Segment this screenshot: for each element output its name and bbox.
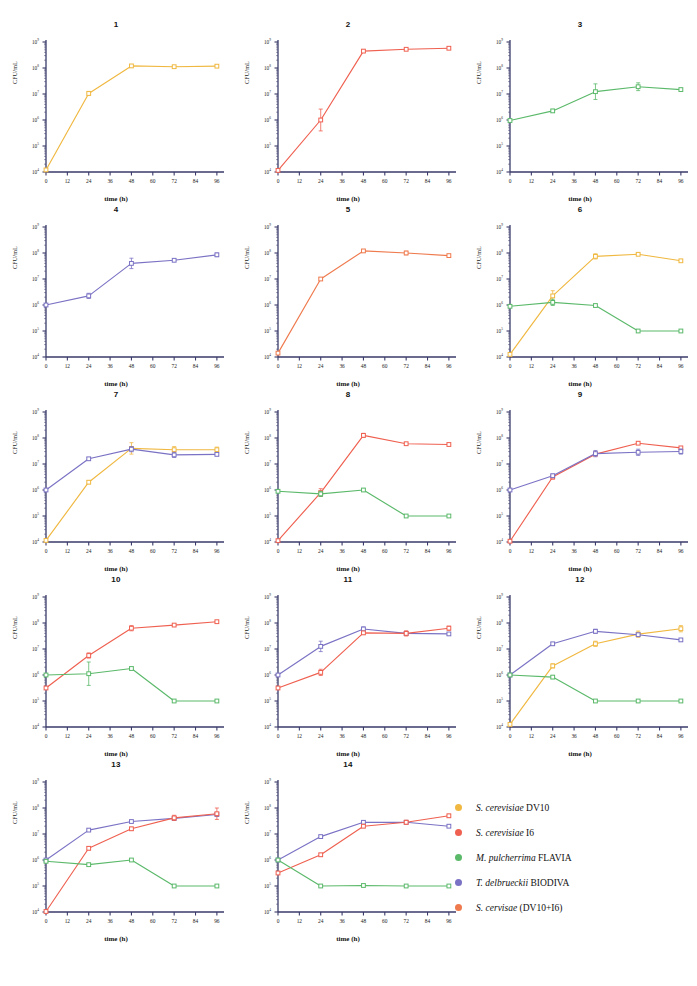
svg-text:108: 108 [32,804,39,811]
svg-text:60: 60 [150,363,156,369]
svg-text:36: 36 [571,733,577,739]
svg-text:84: 84 [657,733,663,739]
legend-strain-name: I6 [526,828,534,838]
panel-title: 10 [0,575,232,584]
figure-legend: S. cerevisiae DV10S. cerevisiae I6M. pul… [455,795,695,920]
svg-text:84: 84 [193,363,199,369]
svg-text:106: 106 [32,301,39,308]
svg-text:105: 105 [264,142,271,149]
svg-text:12: 12 [65,548,71,554]
svg-text:72: 72 [635,363,641,369]
svg-text:84: 84 [425,918,431,924]
panel-title: 9 [464,390,696,399]
plot-area: CFU/mLtime (h)10410510610710810901224364… [0,217,232,387]
svg-text:109: 109 [264,408,271,415]
svg-text:109: 109 [32,593,39,600]
legend-strain-name: DV10 [526,803,549,813]
legend-item: M. pulcherrima FLAVIA [455,845,695,870]
svg-text:60: 60 [614,178,620,184]
svg-text:48: 48 [129,918,135,924]
svg-text:36: 36 [339,363,345,369]
svg-text:48: 48 [593,733,599,739]
svg-text:106: 106 [264,486,271,493]
plot-area: CFU/mLtime (h)10410510610710810901224364… [232,772,464,942]
svg-text:12: 12 [529,548,535,554]
svg-text:109: 109 [264,778,271,785]
svg-text:96: 96 [214,178,220,184]
svg-text:60: 60 [150,548,156,554]
svg-text:24: 24 [318,178,324,184]
svg-text:109: 109 [264,593,271,600]
svg-text:72: 72 [403,363,409,369]
legend-label: S. cerevisiae I6 [476,828,534,838]
svg-text:104: 104 [264,538,271,545]
chart-panel: 8CFU/mLtime (h)1041051061071081090122436… [232,388,464,573]
svg-text:109: 109 [32,38,39,45]
svg-text:96: 96 [214,548,220,554]
svg-text:107: 107 [32,645,39,652]
svg-text:0: 0 [45,733,48,739]
svg-text:108: 108 [264,249,271,256]
svg-text:105: 105 [264,697,271,704]
svg-text:107: 107 [32,90,39,97]
svg-text:24: 24 [550,363,556,369]
svg-text:36: 36 [571,548,577,554]
svg-text:72: 72 [635,178,641,184]
svg-text:108: 108 [264,804,271,811]
svg-text:60: 60 [150,733,156,739]
chart-panel: 3CFU/mLtime (h)1041051061071081090122436… [464,18,696,203]
panel-title: 13 [0,760,232,769]
svg-text:72: 72 [171,918,177,924]
svg-text:0: 0 [277,178,280,184]
legend-species-name: T. delbrueckii [476,878,528,888]
svg-text:84: 84 [193,178,199,184]
svg-text:105: 105 [496,142,503,149]
svg-text:104: 104 [32,168,39,175]
svg-text:96: 96 [446,918,452,924]
svg-text:109: 109 [496,38,503,45]
svg-text:12: 12 [297,363,303,369]
svg-text:0: 0 [509,363,512,369]
svg-text:48: 48 [593,548,599,554]
plot-area: CFU/mLtime (h)10410510610710810901224364… [464,32,696,202]
svg-text:48: 48 [361,548,367,554]
svg-text:106: 106 [496,116,503,123]
svg-text:107: 107 [32,275,39,282]
svg-text:105: 105 [496,512,503,519]
svg-text:105: 105 [32,142,39,149]
svg-text:36: 36 [107,548,113,554]
svg-text:84: 84 [657,178,663,184]
svg-text:96: 96 [446,733,452,739]
svg-text:109: 109 [496,223,503,230]
svg-text:36: 36 [571,363,577,369]
svg-text:109: 109 [496,593,503,600]
svg-text:24: 24 [550,733,556,739]
svg-text:12: 12 [297,178,303,184]
plot-area: CFU/mLtime (h)10410510610710810901224364… [464,402,696,572]
svg-text:36: 36 [107,363,113,369]
svg-text:36: 36 [107,918,113,924]
svg-text:104: 104 [496,353,503,360]
svg-text:104: 104 [32,353,39,360]
legend-strain-name: BIODIVA [530,878,569,888]
svg-text:108: 108 [496,64,503,71]
svg-text:36: 36 [107,733,113,739]
chart-panel: 1CFU/mLtime (h)1041051061071081090122436… [0,18,232,203]
svg-text:72: 72 [403,548,409,554]
svg-text:84: 84 [657,548,663,554]
svg-text:106: 106 [496,486,503,493]
svg-text:0: 0 [45,363,48,369]
svg-text:96: 96 [214,363,220,369]
svg-text:96: 96 [446,363,452,369]
chart-panel: 7CFU/mLtime (h)1041051061071081090122436… [0,388,232,573]
svg-text:106: 106 [496,301,503,308]
legend-label: M. pulcherrima FLAVIA [476,853,572,863]
svg-text:106: 106 [264,301,271,308]
svg-text:105: 105 [264,512,271,519]
svg-text:24: 24 [550,178,556,184]
plot-area: CFU/mLtime (h)10410510610710810901224364… [464,217,696,387]
svg-text:12: 12 [297,733,303,739]
svg-text:12: 12 [65,178,71,184]
svg-text:48: 48 [129,178,135,184]
svg-text:108: 108 [496,434,503,441]
